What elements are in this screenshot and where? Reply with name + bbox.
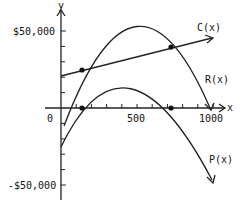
y-tick-label-bottom: -$50,000 bbox=[8, 180, 56, 191]
cost-label: C(x) bbox=[197, 22, 221, 33]
break-even-dot-right bbox=[168, 44, 173, 49]
y-axis-label: y bbox=[58, 0, 64, 11]
revenue-curve bbox=[64, 26, 210, 126]
profit-curve bbox=[61, 88, 212, 180]
profit-zero-dot-left bbox=[79, 105, 84, 110]
profit-zero-dot-right bbox=[168, 105, 173, 110]
x-axis-label: x bbox=[227, 102, 233, 113]
y-tick-label-top: $50,000 bbox=[13, 26, 55, 37]
x-tick-label-0: 0 bbox=[47, 113, 53, 124]
revenue-label: R(x) bbox=[205, 74, 229, 85]
profit-label: P(x) bbox=[209, 154, 233, 165]
x-tick-label-500: 500 bbox=[127, 113, 145, 124]
x-tick-label-1000: 1000 bbox=[199, 113, 223, 124]
profit-revenue-cost-chart: y $50,000 -$50,000 x 0 500 1000 C(x) bbox=[0, 0, 243, 206]
break-even-dot-left bbox=[79, 67, 84, 72]
